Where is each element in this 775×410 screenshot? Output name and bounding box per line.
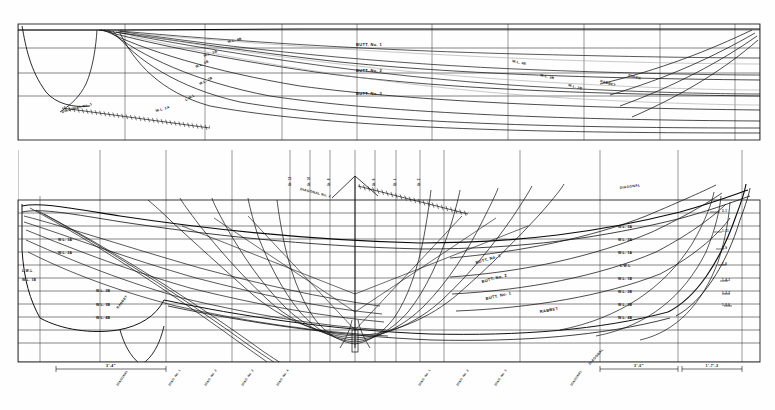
waterline-label: L.W.L <box>22 269 33 273</box>
waterline-label: W.L. 3A <box>618 225 633 229</box>
waterline-label: W.L. 4B <box>96 316 111 320</box>
waterline-label: W.L. 2B <box>96 289 111 293</box>
station-number-label: St. 6 <box>372 178 376 186</box>
waterline-label: W.L. 3B <box>618 303 633 307</box>
waterline-label: W.L. 3B <box>96 303 111 307</box>
dimension-label: 1'-7'-3 <box>706 364 719 368</box>
offset-label: 1-9 <box>722 246 727 250</box>
waterline-label: W.L. 1B <box>618 277 633 281</box>
station-number-label: St. 12 <box>288 176 292 186</box>
waterline-label: L.W.L <box>620 264 631 268</box>
buttock-label: BUTT. No. 1 <box>356 42 382 47</box>
station-number-label: St. 10 <box>307 176 311 186</box>
offset-label: 1-6 <box>722 262 727 266</box>
offset-label: 1-4-2 <box>722 278 730 282</box>
waterline-label: W.L. 3A <box>58 238 73 242</box>
station-number-label: St. 4 <box>393 178 397 186</box>
waterline-label: W.L. 1A <box>618 251 633 255</box>
station-number-label: St. 2 <box>417 178 421 186</box>
waterline-label: W.L. 2A <box>58 251 73 255</box>
dimension-label: 3'-4" <box>106 364 116 368</box>
waterline-label: W.L. 4B <box>618 316 633 320</box>
offset-label: 1-0-6 <box>722 303 730 307</box>
offset-label: 2-1 <box>722 209 727 213</box>
offset-label: 1-11 <box>722 229 729 233</box>
offset-label: 1-2-2 <box>722 291 730 295</box>
dimension-label: 3'-0" <box>634 364 644 368</box>
waterline-label: W.L. 1B <box>22 278 37 282</box>
buttock-label: BUTT. No. 3 <box>356 91 382 96</box>
buttock-label: BUTT. No. 2 <box>356 68 382 73</box>
lines-plan-sheet: BUTT. No. 1BUTT. No. 2BUTT. No. 3 W.L. 4… <box>0 0 775 410</box>
waterline-label: W.L. 2B <box>618 290 633 294</box>
waterline-label: W.L. 2A <box>618 238 633 242</box>
station-number-label: St. 8 <box>327 178 331 186</box>
